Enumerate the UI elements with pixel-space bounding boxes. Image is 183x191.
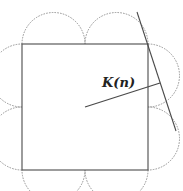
dashed-arcs <box>0 13 180 191</box>
arc-bottom-right <box>85 170 148 191</box>
tangent-line <box>137 12 176 131</box>
arc-right-top <box>148 44 180 107</box>
arc-right-bottom <box>148 107 180 170</box>
arc-left-bottom <box>0 107 22 170</box>
square-with-arcs-diagram <box>0 0 183 191</box>
k-n-label: K(n) <box>102 76 135 89</box>
arc-top-left <box>22 13 85 45</box>
arc-bottom-left <box>22 170 85 191</box>
arc-left-top <box>0 44 22 107</box>
